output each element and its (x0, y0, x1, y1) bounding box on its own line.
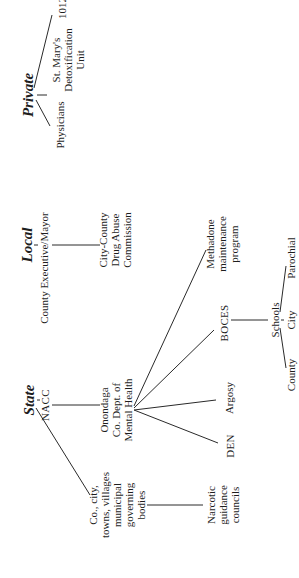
narcotic-line-2: guidance (217, 485, 229, 525)
organization-chart: Private Physicians St. Mary's Detoxifica… (0, 0, 299, 578)
methadone-line-1: Methadone (204, 216, 216, 272)
onondaga-line-2: Co. Dept. of (110, 378, 122, 441)
narcotic-councils-node: Narcotic guidance councils (205, 485, 241, 525)
schools-node: Schools (269, 303, 281, 338)
municipal-line-3: municipal (111, 472, 123, 538)
narcotic-line-1: Narcotic (205, 485, 217, 525)
municipal-line-5: bodies (135, 472, 147, 538)
municipal-line-4: governing (123, 472, 135, 538)
city-county-line-1: City-County (97, 212, 109, 268)
county-schools-node: County (285, 359, 297, 391)
municipal-line-2: towns, villages (99, 472, 111, 538)
city-county-line-2: Drug Abuse (109, 212, 121, 268)
methadone-line-2: maintenance (216, 216, 228, 272)
st-marys-line-3: Unit (74, 28, 86, 92)
nacc-node: NACC (39, 389, 51, 421)
methadone-line-3: program (228, 216, 240, 272)
city-county-line-3: Commission (121, 212, 133, 268)
methadone-program-node: Methadone maintenance program (204, 216, 240, 272)
parochial-schools-node: Parochial (285, 237, 297, 279)
state-title: State (21, 385, 37, 416)
onondaga-line-3: Mental Health (122, 378, 134, 441)
st-marys-line-2: Detoxification (62, 28, 74, 92)
onondaga-node: Onondaga Co. Dept. of Mental Health (98, 378, 134, 441)
municipal-line-1: Co., city, (87, 472, 99, 538)
st-marys-line-1: St. Mary's (50, 28, 62, 92)
local-title: Local (19, 228, 35, 263)
boces-node: BOCES (218, 305, 230, 342)
city-county-commission-node: City-County Drug Abuse Commission (97, 212, 133, 268)
municipal-bodies-node: Co., city, towns, villages municipal gov… (87, 472, 147, 538)
physicians-node: Physicians (54, 101, 66, 148)
argosy-node: Argosy (223, 382, 235, 414)
onondaga-line-1: Onondaga (98, 378, 110, 441)
county-executive-node: County Executive/Mayor (38, 212, 50, 324)
narcotic-line-3: councils (229, 485, 241, 525)
1012-node: 1012 (56, 0, 68, 19)
city-schools-node: City (285, 311, 297, 330)
den-node: DEN (224, 434, 236, 458)
st-marys-node: St. Mary's Detoxification Unit (50, 28, 86, 92)
private-title: Private (20, 73, 36, 117)
